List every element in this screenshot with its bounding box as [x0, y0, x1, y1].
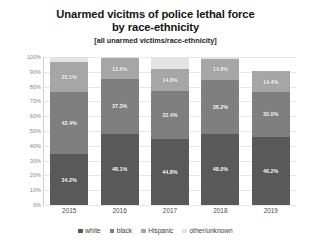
bar-stack[interactable]: 48.0%36.2%14.8%	[201, 57, 239, 205]
chart-title-line-1: Unarmed vicitms of police lethal force	[0, 8, 311, 21]
bar-slot: 44.8%32.4%14.8%	[151, 57, 189, 205]
bar-segment-value-label: 14.8%	[213, 66, 228, 72]
bar-segment-black[interactable]: 37.3%	[101, 79, 139, 134]
y-axis-tick-label: 80%	[30, 84, 41, 90]
y-axis-tick-label: 40%	[30, 143, 41, 149]
bar-segment-other-unknown[interactable]	[50, 57, 88, 62]
bar-segment-hispanic[interactable]: 13.6%	[101, 58, 139, 78]
x-axis-labels: 20152016201720182019	[44, 207, 296, 221]
chart-title-block: Unarmed vicitms of police lethal force b…	[0, 8, 311, 46]
bars-group: 34.2%42.4%20.1%48.1%37.3%13.6%44.8%32.4%…	[44, 57, 296, 205]
bar-segment-value-label: 46.2%	[263, 168, 278, 174]
bar-segment-other-unknown[interactable]	[101, 57, 139, 58]
plot-area: 0%10%20%30%40%50%60%70%80%90%100% 34.2%4…	[44, 57, 296, 205]
bar-slot: 48.1%37.3%13.6%	[101, 57, 139, 205]
y-axis-tick-label: 10%	[30, 187, 41, 193]
bar-segment-value-label: 44.8%	[162, 169, 177, 175]
legend-label: white	[85, 227, 100, 235]
bar-segment-value-label: 32.4%	[162, 112, 177, 118]
bar-segment-black[interactable]: 32.4%	[151, 91, 189, 139]
bar-stack[interactable]: 48.1%37.3%13.6%	[101, 57, 139, 205]
bar-stack[interactable]: 34.2%42.4%20.1%	[50, 57, 88, 205]
bar-slot: 48.0%36.2%14.8%	[201, 57, 239, 205]
x-axis-label-2018: 2018	[201, 207, 239, 215]
bar-segment-value-label: 48.1%	[112, 166, 127, 172]
bar-stack[interactable]: 44.8%32.4%14.8%	[151, 57, 189, 205]
bar-segment-value-label: 36.2%	[213, 104, 228, 110]
bar-segment-white[interactable]: 48.0%	[201, 134, 239, 205]
x-axis-label-2017: 2017	[151, 207, 189, 215]
y-axis-tick-label: 50%	[30, 128, 41, 134]
y-axis-tick-label: 0%	[33, 202, 41, 208]
chart-title-line-2: by race-ethnicity	[0, 21, 311, 34]
bar-segment-value-label: 13.6%	[112, 66, 127, 72]
y-axis-tick-label: 90%	[30, 69, 41, 75]
x-axis-label-2015: 2015	[50, 207, 88, 215]
legend-item-hispanic[interactable]: Hispanic	[141, 227, 173, 235]
legend-swatch-icon	[78, 229, 83, 234]
legend-label: Hispanic	[148, 227, 173, 235]
bar-segment-value-label: 34.2%	[62, 177, 77, 183]
bar-segment-white[interactable]: 44.8%	[151, 139, 189, 205]
gridline: 0%	[44, 205, 296, 206]
legend-swatch-icon	[182, 229, 187, 234]
bar-segment-value-label: 30.0%	[263, 111, 278, 117]
legend-item-black[interactable]: black	[110, 227, 132, 235]
bar-segment-value-label: 42.4%	[62, 120, 77, 126]
bar-segment-hispanic[interactable]: 20.1%	[50, 62, 88, 92]
bar-stack[interactable]: 46.2%30.0%14.4%	[252, 71, 290, 205]
bar-segment-white[interactable]: 46.2%	[252, 137, 290, 205]
legend-swatch-icon	[141, 229, 146, 234]
x-axis-label-2016: 2016	[101, 207, 139, 215]
y-axis-tick-label: 100%	[27, 54, 41, 60]
bar-segment-white[interactable]: 48.1%	[101, 134, 139, 205]
bar-segment-other-unknown[interactable]	[151, 57, 189, 69]
y-axis-tick-label: 60%	[30, 113, 41, 119]
bar-segment-hispanic[interactable]: 14.8%	[201, 59, 239, 81]
bar-segment-value-label: 14.4%	[263, 79, 278, 85]
legend-item-other-unknown[interactable]: other/unknown	[182, 227, 232, 235]
chart-legend: whiteblackHispanicother/unknown	[0, 227, 311, 235]
bar-segment-hispanic[interactable]: 14.8%	[151, 69, 189, 91]
bar-segment-black[interactable]: 30.0%	[252, 92, 290, 136]
bar-slot: 46.2%30.0%14.4%	[252, 57, 290, 205]
chart-container: Unarmed vicitms of police lethal force b…	[0, 0, 311, 249]
legend-label: other/unknown	[189, 227, 232, 235]
bar-segment-value-label: 14.8%	[162, 77, 177, 83]
bar-segment-hispanic[interactable]: 14.4%	[252, 71, 290, 92]
bar-segment-value-label: 48.0%	[213, 166, 228, 172]
bar-segment-black[interactable]: 42.4%	[50, 92, 88, 155]
y-axis-tick-label: 70%	[30, 98, 41, 104]
bar-segment-value-label: 20.1%	[62, 74, 77, 80]
bar-segment-black[interactable]: 36.2%	[201, 80, 239, 134]
legend-swatch-icon	[110, 229, 115, 234]
chart-subtitle: [all unarmed victims/race-ethnicity]	[0, 36, 311, 46]
x-axis-label-2019: 2019	[252, 207, 290, 215]
legend-item-white[interactable]: white	[78, 227, 100, 235]
bar-segment-white[interactable]: 34.2%	[50, 154, 88, 205]
y-axis-tick-label: 20%	[30, 172, 41, 178]
bar-slot: 34.2%42.4%20.1%	[50, 57, 88, 205]
y-axis-tick-label: 30%	[30, 158, 41, 164]
bar-segment-value-label: 37.3%	[112, 103, 127, 109]
bar-segment-other-unknown[interactable]	[201, 57, 239, 58]
legend-label: black	[117, 227, 132, 235]
